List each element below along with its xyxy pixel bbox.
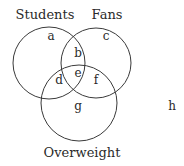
overweight-label: Overweight: [44, 145, 122, 160]
region-b: b: [74, 46, 82, 60]
region-d: d: [55, 73, 63, 87]
region-g: g: [74, 99, 82, 113]
students-label: Students: [16, 7, 75, 22]
region-h: h: [168, 99, 176, 113]
region-f: f: [94, 73, 100, 87]
fans-label: Fans: [92, 7, 123, 22]
region-a: a: [47, 29, 54, 43]
venn-diagram: Students Fans Overweight a b c d e f g h: [0, 0, 184, 166]
fans-circle: [61, 28, 131, 98]
region-e: e: [74, 66, 81, 80]
region-c: c: [103, 29, 110, 43]
